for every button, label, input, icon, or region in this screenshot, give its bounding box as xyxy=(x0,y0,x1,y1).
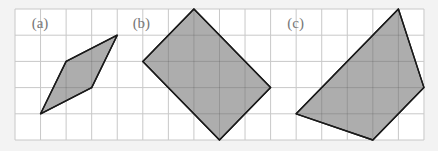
panel-label-b: (b) xyxy=(133,15,151,32)
grid-figure: (a) (b) (c) xyxy=(0,0,438,151)
panel-label-a: (a) xyxy=(32,15,49,32)
panel-label-c: (c) xyxy=(287,15,304,32)
grid-svg: (a) (b) (c) xyxy=(0,0,438,151)
